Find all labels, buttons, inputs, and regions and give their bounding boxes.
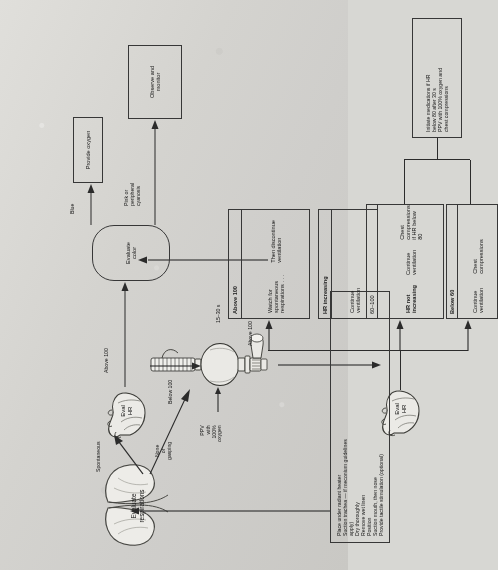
above-100-outcome-box: Above 100 Watch for spontaneous respirat… (228, 209, 310, 319)
provide-oxygen-label: Provide oxygen (85, 131, 91, 170)
medications-line-4: chest compressions (443, 24, 449, 132)
hr-60-100-line-2: Chest compressions if HR below 80 (399, 205, 423, 240)
edge-label-none-or-gasping: None or gasping (155, 442, 172, 460)
evaluate-color-node: Evaluate color (92, 225, 170, 281)
below-60-outcome-box: Below 60 Continue ventilation Chest comp… (446, 204, 498, 319)
medications-box: Initiate medications if HR below 80 afte… (412, 18, 462, 138)
connector-below60-to-meds (470, 160, 471, 204)
below-60-header: Below 60 (447, 205, 458, 318)
arrow-above-100-to-color (118, 281, 132, 387)
arrow-bus-to-60-100 (393, 319, 407, 351)
edge-label-above-100-top: Above 100 (104, 348, 110, 373)
above-100-outcome-line-1: Watch for spontaneous respirations . . . (267, 275, 285, 313)
observe-and-monitor-label: Observe and monitor (149, 66, 161, 98)
hr-60-100-header: 60–100 (367, 205, 378, 318)
above-100-outcome-header: Above 100 (229, 210, 242, 318)
arrow-below-100 (150, 359, 202, 373)
edge-label-spontaneous: Spontaneous (96, 441, 102, 472)
heart-bottom-label-2: HR (401, 404, 407, 413)
ppv-arrow (212, 386, 224, 412)
hr-increasing-line-1: Continue ventilation (349, 288, 361, 313)
connector-meds-into-box (437, 138, 438, 160)
arrow-bus-to-below60 (461, 319, 475, 351)
hr-increasing-header: HR increasing (319, 210, 332, 318)
observe-and-monitor-box: Observe and monitor (128, 45, 182, 119)
edge-label-blue: Blue (70, 204, 76, 214)
arrow-initial-to-lungs (130, 504, 330, 518)
edge-label-above-100-lower: Above 100 (248, 321, 254, 346)
arrow-bus-to-above100 (262, 319, 276, 351)
heart-top-label-2: HR (127, 406, 133, 415)
arrow-blue-to-oxygen (84, 183, 98, 225)
connector-60100-to-meds (404, 160, 405, 204)
heart-bottom-to-bus (400, 351, 401, 390)
edge-label-duration: 15–30 s (216, 305, 222, 323)
arrow-pink-to-observe (148, 119, 162, 225)
below-60-line-1: Continue ventilation (472, 288, 484, 313)
edge-label-below-100: Below 100 (168, 380, 174, 404)
initial-step-8: Provide tactile stimulation (optional) (378, 298, 384, 536)
edge-label-ppv-100-oxygen: PPV with 100% oxygen (200, 425, 223, 442)
initial-steps-box: Place under radiant heater Suction trach… (330, 291, 390, 543)
below-60-line-2: Chest compressions (472, 239, 484, 274)
hr-60-100-line-1: Continue ventilation (405, 250, 417, 275)
arrow-spontaneous (112, 434, 144, 474)
provide-oxygen-box: Provide oxygen (73, 117, 103, 183)
above-100-outcome-line-2: Then discontinue ventilation (270, 220, 282, 263)
hr-60-100-subheader: HR not increasing (405, 285, 417, 313)
heart-bottom-label-1: Eval (394, 403, 400, 415)
edge-label-pink-or-cyanosis: Pink or peripheral cyanosis (124, 183, 141, 206)
heart-top-label-1: Eval (120, 405, 126, 417)
hr-60-100-outcome-box: 60–100 HR not increasing Continue ventil… (366, 204, 444, 319)
